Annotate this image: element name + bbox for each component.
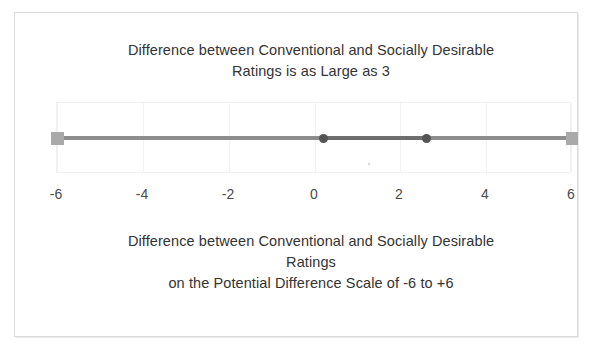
chart-caption-line-1: Difference between Conventional and Soci… xyxy=(55,231,567,252)
chart-caption-line-3: on the Potential Difference Scale of -6 … xyxy=(55,273,567,294)
chart-title-line-1: Difference between Conventional and Soci… xyxy=(55,40,567,61)
x-axis-labels: -6 -4 -2 0 2 4 6 xyxy=(56,186,571,206)
marker-difference-lower xyxy=(319,134,328,143)
figure-frame: Difference between Conventional and Soci… xyxy=(14,12,578,337)
x-tick-label--2: -2 xyxy=(208,186,248,202)
chart-title: Difference between Conventional and Soci… xyxy=(55,40,567,82)
x-tick-label--4: -4 xyxy=(122,186,162,202)
series-line-highlight-segment xyxy=(323,136,426,140)
x-tick-label--6: -6 xyxy=(36,186,76,202)
marker-scale-minimum xyxy=(51,132,64,145)
series-line xyxy=(57,136,572,140)
scanned-page: Difference between Conventional and Soci… xyxy=(0,0,592,352)
marker-difference-upper xyxy=(422,134,431,143)
marker-scale-maximum xyxy=(566,132,579,145)
x-tick-label-4: 4 xyxy=(465,186,505,202)
chart-caption-line-2: Ratings xyxy=(55,252,567,273)
x-tick-label-2: 2 xyxy=(379,186,419,202)
x-tick-label-0: 0 xyxy=(294,186,334,202)
plot-area xyxy=(56,102,571,173)
scan-artifact-speck xyxy=(368,163,370,165)
chart-caption: Difference between Conventional and Soci… xyxy=(55,231,567,294)
chart-title-line-2: Ratings is as Large as 3 xyxy=(55,61,567,82)
x-tick-label-6: 6 xyxy=(551,186,591,202)
